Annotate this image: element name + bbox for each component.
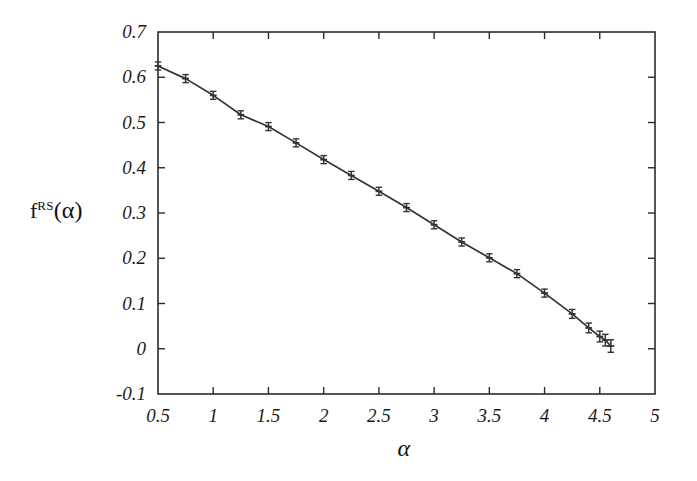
x-tick-label: 3.5 <box>459 406 519 425</box>
x-axis-label: α <box>398 436 411 460</box>
chart-figure: -0.100.10.20.30.40.50.60.7 0.511.522.533… <box>0 0 697 481</box>
y-tick-label: 0 <box>137 339 147 358</box>
x-tick-label: 2.5 <box>349 406 409 425</box>
y-tick-label: 0.1 <box>122 294 146 313</box>
axes-frame <box>158 32 655 394</box>
y-tick-label: 0.7 <box>122 22 146 41</box>
y-tick-label: 0.2 <box>122 248 146 267</box>
data-point-markers <box>155 62 615 352</box>
x-tick-label: 1.5 <box>238 406 298 425</box>
x-tick-label: 3 <box>404 406 464 425</box>
x-tick-label: 4.5 <box>570 406 630 425</box>
axis-ticks <box>158 32 655 394</box>
x-tick-label: 4 <box>515 406 575 425</box>
x-tick-label: 0.5 <box>128 406 188 425</box>
y-tick-label: 0.3 <box>122 203 146 222</box>
y-axis-label: fRS(α) <box>30 198 82 222</box>
y-tick-label: 0.6 <box>122 67 146 86</box>
y-tick-label: 0.5 <box>122 113 146 132</box>
x-tick-label: 5 <box>625 406 685 425</box>
y-tick-label: -0.1 <box>116 384 146 403</box>
y-axis-label-argument: (α) <box>54 197 83 223</box>
y-tick-label: 0.4 <box>122 158 146 177</box>
data-series-line <box>158 66 611 346</box>
x-tick-label: 2 <box>294 406 354 425</box>
y-axis-label-superscript: RS <box>37 198 54 213</box>
x-tick-label: 1 <box>183 406 243 425</box>
